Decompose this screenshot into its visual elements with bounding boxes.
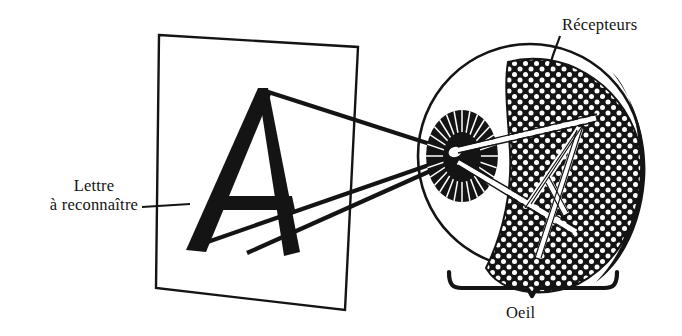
paper-sheet [156, 35, 358, 310]
label-lettre-line1: Lettre [44, 176, 144, 195]
label-lettre-a-reconnaitre: Lettre à reconnaître [44, 176, 144, 215]
label-recepteurs: Récepteurs [562, 15, 637, 34]
figure-canvas: Lettre à reconnaître Récepteurs Oeil [0, 0, 682, 336]
paper-outline [156, 35, 358, 310]
eye-lens [424, 104, 500, 208]
label-oeil: Oeil [506, 303, 535, 322]
eye-letter-recognition-diagram [0, 0, 682, 336]
label-lettre-line2: à reconnaître [44, 195, 144, 214]
